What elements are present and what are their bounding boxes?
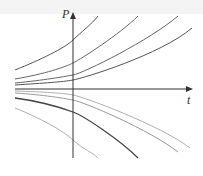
p-axis-arrow-icon xyxy=(70,12,76,19)
growth-curve-4 xyxy=(15,28,192,85)
solution-curves-chart xyxy=(0,0,203,176)
growth-curve-2 xyxy=(15,16,138,79)
x-axis-label: t xyxy=(187,93,190,108)
decay-curve-3 xyxy=(15,98,138,158)
decay-curve-4 xyxy=(15,108,98,158)
y-axis-label: P xyxy=(62,7,69,22)
t-axis-arrow-icon xyxy=(186,86,193,92)
growth-curve-1 xyxy=(15,16,98,70)
